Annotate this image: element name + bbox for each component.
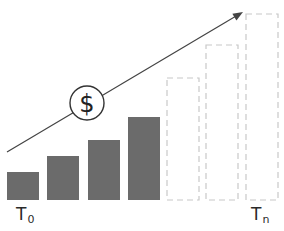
end-time-label: Tn xyxy=(251,206,269,225)
actual-bar-4 xyxy=(128,117,160,200)
actual-bar-2 xyxy=(47,156,79,200)
arrow-head-icon xyxy=(232,12,243,21)
end-label-main: T xyxy=(251,204,261,224)
trend-arrow xyxy=(7,16,236,152)
projected-bar-6 xyxy=(206,45,238,200)
diagram-graphic: $ xyxy=(0,0,284,231)
end-label-sub: n xyxy=(262,213,269,226)
start-time-label: T0 xyxy=(16,206,34,225)
dollar-icon: $ xyxy=(79,90,94,118)
dollar-badge: $ xyxy=(70,86,104,120)
bars-group xyxy=(7,14,278,200)
projected-bar-5 xyxy=(167,78,199,200)
actual-bar-3 xyxy=(88,140,120,200)
growth-diagram: $ T0 Tn xyxy=(0,0,284,231)
projected-bar-7 xyxy=(246,14,278,200)
actual-bar-1 xyxy=(7,172,39,200)
start-label-sub: 0 xyxy=(27,213,34,226)
start-label-main: T xyxy=(16,204,26,224)
